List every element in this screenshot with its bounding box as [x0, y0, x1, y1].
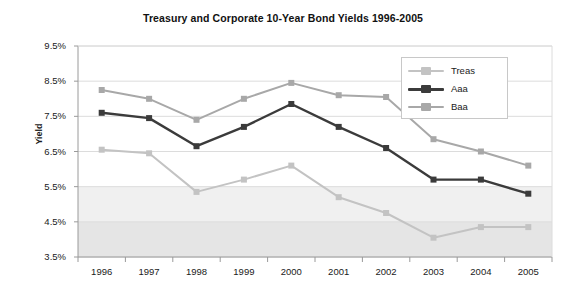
data-point-marker — [336, 124, 342, 130]
data-point-marker — [478, 149, 484, 155]
data-point-marker — [525, 224, 531, 230]
data-point-marker — [431, 136, 437, 142]
legend-item-baa[interactable]: Baa — [408, 98, 501, 116]
data-point-marker — [383, 145, 389, 151]
data-point-marker — [336, 194, 342, 200]
data-point-marker — [241, 177, 247, 183]
legend-marker-baa — [408, 101, 444, 113]
data-point-marker — [99, 147, 105, 153]
data-point-marker — [336, 92, 342, 98]
data-point-marker — [525, 163, 531, 169]
data-point-marker — [194, 117, 200, 123]
data-point-marker — [431, 235, 437, 241]
bond-yields-chart: Treasury and Corporate 10-Year Bond Yiel… — [0, 0, 566, 305]
band-mid — [78, 187, 552, 222]
data-point-marker — [194, 189, 200, 195]
legend-item-treas[interactable]: Treas — [408, 62, 501, 80]
data-point-marker — [288, 101, 294, 107]
data-point-marker — [478, 224, 484, 230]
data-point-marker — [478, 177, 484, 183]
data-point-marker — [146, 96, 152, 102]
legend-label-aaa: Aaa — [451, 83, 468, 95]
data-point-marker — [383, 94, 389, 100]
data-point-marker — [431, 177, 437, 183]
legend-marker-treas — [408, 65, 444, 77]
legend-item-aaa[interactable]: Aaa — [408, 80, 501, 98]
data-point-marker — [146, 115, 152, 121]
data-point-marker — [146, 150, 152, 156]
data-point-marker — [288, 163, 294, 169]
legend-marker-aaa — [408, 83, 444, 95]
data-point-marker — [99, 87, 105, 93]
chart-legend: Treas Aaa Baa — [401, 57, 508, 119]
legend-label-treas: Treas — [451, 65, 475, 77]
legend-label-baa: Baa — [451, 101, 468, 113]
data-point-marker — [241, 96, 247, 102]
data-point-marker — [194, 143, 200, 149]
data-point-marker — [288, 80, 294, 86]
plot-area — [0, 0, 566, 305]
data-point-marker — [99, 110, 105, 116]
data-point-marker — [525, 191, 531, 197]
data-point-marker — [241, 124, 247, 130]
data-point-marker — [383, 210, 389, 216]
